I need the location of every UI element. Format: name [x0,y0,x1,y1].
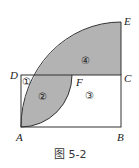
label-f: F [75,76,83,88]
label-a: A [15,131,23,143]
region-label-2: ② [38,91,47,102]
region-4-shape [35,22,121,75]
label-c: C [124,72,132,84]
geometry-figure: A B C D E F ① ② ③ ④ 图 5-2 [0,0,139,168]
figure-caption: 图 5-2 [54,148,86,161]
label-d: D [9,69,18,81]
region-label-4: ④ [81,55,90,66]
region-label-3: ③ [85,90,94,101]
label-e: E [123,15,131,27]
region-label-1: ① [22,76,31,87]
label-b: B [117,131,124,143]
